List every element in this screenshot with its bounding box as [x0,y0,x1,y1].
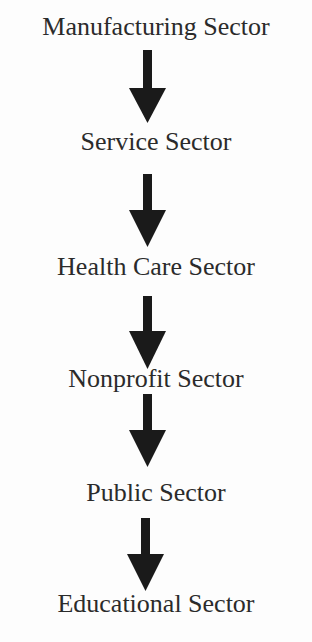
down-arrow-icon [126,518,166,592]
node-service-sector: Service Sector [0,127,312,157]
sector-flow-diagram: Manufacturing Sector Service Sector Heal… [0,0,312,642]
down-arrow-icon [128,394,168,468]
down-arrow-icon [128,296,168,370]
node-nonprofit-sector: Nonprofit Sector [0,364,312,394]
node-health-care-sector: Health Care Sector [0,252,312,282]
down-arrow-icon [128,174,168,248]
node-public-sector: Public Sector [0,478,312,508]
node-manufacturing-sector: Manufacturing Sector [0,12,312,42]
node-educational-sector: Educational Sector [0,589,312,619]
down-arrow-icon [128,50,168,124]
